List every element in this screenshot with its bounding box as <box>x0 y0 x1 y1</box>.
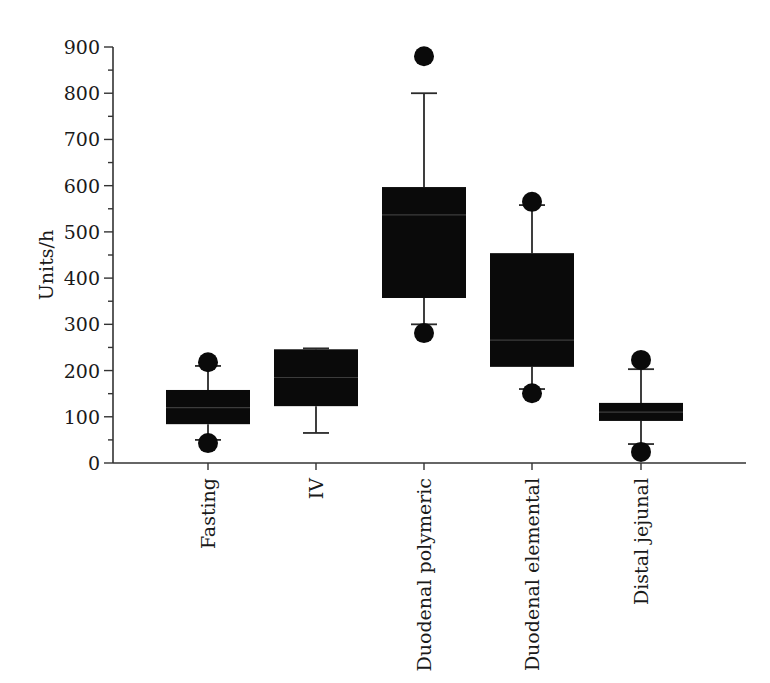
y-tick-label: 800 <box>64 82 100 104</box>
x-axis: FastingIVDuodenal polymericDuodenal elem… <box>113 463 746 671</box>
x-tick-label: IV <box>305 478 327 500</box>
y-tick-label: 400 <box>64 267 100 289</box>
y-tick-label: 300 <box>64 313 100 335</box>
y-tick-label: 600 <box>64 175 100 197</box>
outlier-point <box>414 46 434 66</box>
outlier-point <box>631 442 651 462</box>
box-fasting <box>166 352 250 453</box>
y-tick-label: 700 <box>64 128 100 150</box>
y-tick-label: 900 <box>64 36 100 58</box>
x-tick-label: Fasting <box>197 478 219 549</box>
outlier-point <box>522 383 542 403</box>
box-duodenal-polymeric <box>382 46 466 343</box>
outlier-point <box>522 192 542 212</box>
chart-canvas: 0100200300400500600700800900 FastingIVDu… <box>0 0 770 683</box>
iqr-box <box>490 253 574 367</box>
outlier-point <box>414 323 434 343</box>
y-tick-label: 500 <box>64 221 100 243</box>
x-tick-label: Duodenal elemental <box>521 478 543 671</box>
iqr-box <box>382 187 466 298</box>
outlier-point <box>631 350 651 370</box>
box-series <box>166 46 683 462</box>
y-axis: 0100200300400500600700800900 <box>64 36 113 474</box>
y-tick-label: 0 <box>88 452 100 474</box>
y-tick-label: 100 <box>64 406 100 428</box>
y-tick-label: 200 <box>64 360 100 382</box>
y-axis-label: Units/h <box>35 230 57 300</box>
box-duodenal-elemental <box>490 192 574 403</box>
x-tick-label: Distal jejunal <box>630 478 652 605</box>
outlier-point <box>198 352 218 372</box>
box-iv <box>274 348 358 433</box>
box-plot-chart: 0100200300400500600700800900 FastingIVDu… <box>0 0 770 683</box>
outlier-point <box>198 433 218 453</box>
x-tick-label: Duodenal polymeric <box>413 478 435 671</box>
box-distal-jejunal <box>599 350 683 462</box>
